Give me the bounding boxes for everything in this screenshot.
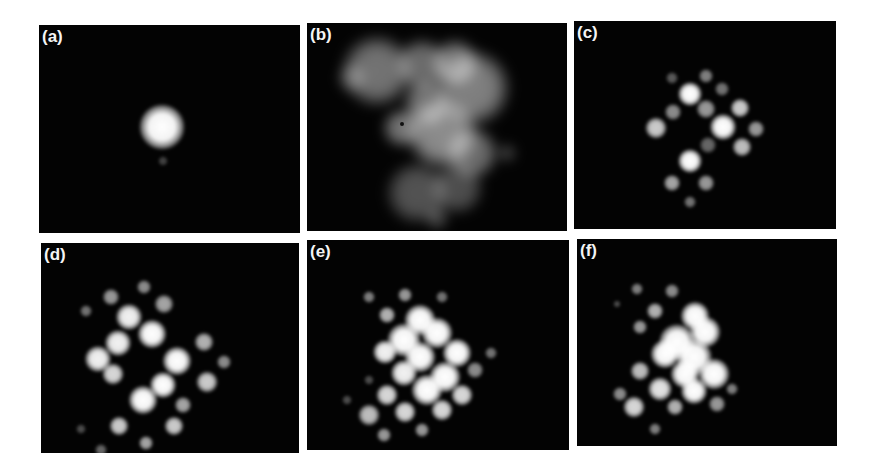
bright-spot — [451, 384, 474, 407]
bright-spot — [358, 404, 381, 427]
bright-spot — [425, 206, 450, 231]
bright-spot — [697, 174, 715, 192]
bright-spot — [633, 320, 648, 335]
bright-spot — [164, 416, 184, 436]
bright-spot — [376, 384, 399, 407]
bright-spot — [466, 361, 484, 379]
bright-spot — [699, 136, 717, 154]
bright-spot — [497, 143, 517, 163]
bright-spot — [709, 113, 737, 141]
bright-spot — [646, 302, 664, 320]
panel-label: (e) — [310, 242, 331, 262]
bright-spot — [95, 444, 108, 453]
bright-spot — [109, 416, 129, 436]
bright-spot — [678, 149, 703, 174]
bright-spot — [102, 363, 125, 386]
bright-spot — [342, 395, 352, 405]
bright-spot — [194, 332, 214, 352]
bright-spot — [398, 288, 413, 303]
bright-spot — [665, 284, 680, 299]
bright-spot — [373, 340, 398, 365]
bright-spot — [613, 300, 621, 308]
bright-spot — [726, 383, 739, 396]
bright-spot — [732, 137, 752, 157]
diffraction-image — [39, 25, 300, 233]
bright-spot — [138, 103, 186, 151]
bright-spot — [402, 78, 452, 128]
bright-spot — [415, 423, 430, 438]
bright-spot — [364, 375, 374, 385]
panel-label: (d) — [44, 245, 66, 265]
bright-spot — [699, 69, 714, 84]
bright-spot — [645, 117, 668, 140]
bright-spot — [663, 174, 681, 192]
bright-spot — [137, 280, 152, 295]
bright-spot — [436, 291, 449, 304]
image-panel-a: (a) — [39, 25, 300, 233]
bright-spot — [154, 294, 174, 314]
bright-spot — [158, 156, 168, 166]
diffraction-image — [307, 23, 567, 231]
panel-label: (b) — [310, 25, 332, 45]
bright-spot — [174, 396, 192, 414]
bright-spot — [80, 305, 93, 318]
bright-spot — [666, 72, 679, 85]
bright-spot — [730, 98, 750, 118]
bright-spot — [648, 377, 673, 402]
diffraction-image — [41, 243, 299, 453]
image-panel-d: (d) — [41, 243, 299, 453]
bright-spot — [631, 283, 644, 296]
panel-label: (f) — [580, 241, 597, 261]
bright-spot — [623, 396, 646, 419]
diffraction-image — [577, 239, 837, 446]
bright-spot — [217, 355, 232, 370]
bright-spot — [715, 82, 730, 97]
bright-spot — [394, 401, 417, 424]
bright-spot — [431, 399, 454, 422]
panel-label: (c) — [577, 23, 598, 43]
bright-spot — [162, 346, 192, 376]
bright-spot — [666, 398, 684, 416]
bright-spot — [377, 428, 392, 443]
bright-spot — [363, 291, 376, 304]
bright-spot — [630, 361, 650, 381]
image-panel-e: (e) — [307, 240, 569, 450]
bright-spot — [613, 387, 628, 402]
dark-dot — [400, 122, 404, 126]
bright-spot — [485, 347, 498, 360]
diffraction-image — [574, 21, 836, 229]
bright-spot — [337, 63, 367, 93]
bright-spot — [664, 103, 682, 121]
bright-spot — [139, 436, 154, 451]
bright-spot — [649, 423, 662, 436]
bright-spot — [378, 306, 396, 324]
bright-spot — [680, 377, 708, 405]
bright-spot — [102, 288, 120, 306]
bright-spot — [137, 319, 167, 349]
bright-spot — [196, 371, 219, 394]
image-panel-c: (c) — [574, 21, 836, 229]
bright-spot — [708, 395, 726, 413]
bright-spot — [696, 99, 716, 119]
bright-spot — [76, 424, 86, 434]
diffraction-image — [307, 240, 569, 450]
bright-spot — [747, 120, 765, 138]
bright-spot — [128, 385, 158, 415]
image-panel-f: (f) — [577, 239, 837, 446]
panel-label: (a) — [42, 27, 63, 47]
image-panel-b: (b) — [307, 23, 567, 231]
bright-spot — [115, 303, 143, 331]
bright-spot — [684, 196, 697, 209]
